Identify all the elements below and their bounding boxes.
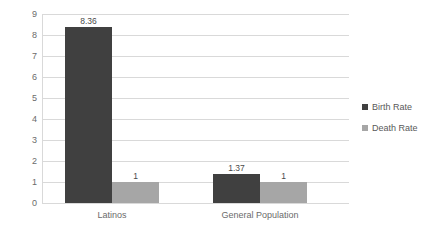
x-axis-label-latinos: Latinos xyxy=(53,210,171,220)
bar-value-general-population-birth-rate: 1.37 xyxy=(213,164,260,173)
y-tick-8: 8 xyxy=(7,31,37,40)
gridline-0 xyxy=(42,203,349,204)
bar-general-population-birth-rate[interactable] xyxy=(213,174,260,203)
bar-value-latinos-death-rate: 1 xyxy=(112,172,159,181)
y-tick-1: 1 xyxy=(7,178,37,187)
square-marker-icon xyxy=(362,104,368,110)
bar-value-latinos-birth-rate: 8.36 xyxy=(65,17,112,26)
bar-group-general-population: 1.37 1 xyxy=(213,14,331,203)
x-axis-label-general-population: General Population xyxy=(201,210,319,220)
bar-value-general-population-death-rate: 1 xyxy=(260,172,307,181)
y-tick-7: 7 xyxy=(7,52,37,61)
legend-item-birth-rate[interactable]: Birth Rate xyxy=(362,99,418,114)
bar-chart: 9 8 7 6 5 4 3 2 1 0 8.36 1 xyxy=(0,0,432,236)
y-axis-tick-labels: 9 8 7 6 5 4 3 2 1 0 xyxy=(0,0,37,236)
square-marker-icon xyxy=(362,125,368,131)
bar-group-latinos: 8.36 1 xyxy=(65,14,183,203)
bar-latinos-death-rate[interactable] xyxy=(112,182,159,203)
legend-item-death-rate[interactable]: Death Rate xyxy=(362,120,418,135)
y-tick-5: 5 xyxy=(7,94,37,103)
y-tick-9: 9 xyxy=(7,10,37,19)
y-tick-4: 4 xyxy=(7,115,37,124)
plot-area: 8.36 1 1.37 1 xyxy=(42,14,349,203)
legend-label-birth-rate: Birth Rate xyxy=(372,102,412,112)
chart-legend: Birth Rate Death Rate xyxy=(362,99,418,141)
y-tick-3: 3 xyxy=(7,136,37,145)
legend-label-death-rate: Death Rate xyxy=(372,123,418,133)
y-tick-0: 0 xyxy=(7,199,37,208)
y-tick-6: 6 xyxy=(7,73,37,82)
y-tick-2: 2 xyxy=(7,157,37,166)
bar-general-population-death-rate[interactable] xyxy=(260,182,307,203)
bar-latinos-birth-rate[interactable] xyxy=(65,27,112,203)
